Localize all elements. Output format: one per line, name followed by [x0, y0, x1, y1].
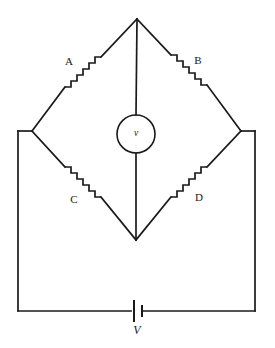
wire-left-node-to-resistor-c	[32, 131, 65, 167]
wire-resistor-d-to-bottom-node	[136, 197, 171, 240]
battery-label: V	[133, 323, 142, 337]
bridge-arm-d: D	[136, 131, 241, 240]
wire-top-to-resistor-a	[101, 19, 137, 57]
wire-resistor-c-to-bottom-node	[101, 197, 136, 240]
wire-resistor-b-to-right-node	[207, 85, 241, 131]
resistor-c-label: C	[70, 193, 77, 205]
wire-resistor-a-to-left-node	[32, 87, 65, 131]
wire-top-to-resistor-b	[137, 19, 171, 55]
battery-symbol: V	[133, 300, 142, 337]
circuit-diagram: A B C D v	[0, 0, 275, 348]
resistor-d-label: D	[195, 191, 203, 203]
circuit-schematic-canvas: A B C D v	[0, 0, 275, 348]
bridge-arm-c: C	[32, 131, 136, 240]
bridge-meter-branch: v	[117, 19, 155, 240]
wire-top-node-to-meter	[136, 19, 137, 115]
resistor-a-label: A	[65, 55, 73, 67]
bridge-arm-a: A	[32, 19, 137, 131]
bridge-arm-b: B	[137, 19, 241, 131]
wire-right-node-to-resistor-d	[207, 131, 241, 167]
resistor-b-label: B	[194, 54, 201, 66]
voltmeter-label: v	[134, 128, 139, 138]
